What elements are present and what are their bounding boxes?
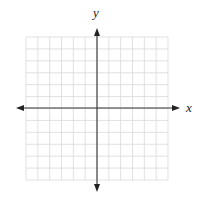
x-axis — [16, 105, 180, 111]
coordinate-plane — [0, 0, 208, 198]
x-axis-left-arrow-icon — [16, 105, 24, 111]
x-axis-right-arrow-icon — [172, 105, 180, 111]
y-axis-down-arrow-icon — [94, 184, 100, 192]
y-axis-label: y — [93, 6, 99, 19]
x-axis-label: x — [186, 101, 192, 114]
y-axis — [94, 28, 100, 192]
y-axis-up-arrow-icon — [94, 28, 100, 36]
